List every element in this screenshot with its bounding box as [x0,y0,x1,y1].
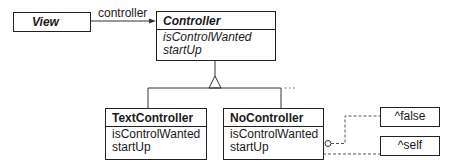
inheritance-triangle-icon [209,76,221,88]
class-view: View [13,12,91,32]
note-self: ^self [380,136,440,156]
class-diagram: View controller Controller isControlWant… [0,0,451,165]
class-name: TextController [106,109,206,127]
class-name: Controller [157,12,275,30]
operations: isControlWanted startUp [106,127,206,154]
association-label: controller [98,6,147,20]
operation: startUp [230,141,323,154]
operation: startUp [163,44,275,57]
class-name: NoController [224,109,323,127]
operations: isControlWanted startUp [157,30,275,57]
class-controller: Controller isControlWanted startUp [156,11,276,61]
note-link-false [331,116,380,144]
note-anchor-icon [325,141,331,147]
class-textcontroller: TextController isControlWanted startUp [105,108,207,160]
note-false: ^false [380,107,440,127]
operations: isControlWanted startUp [224,127,323,154]
operation: startUp [112,141,206,154]
arrowhead-icon [149,19,156,24]
class-nocontroller: NoController isControlWanted startUp [223,108,324,160]
class-name: View [14,13,90,31]
